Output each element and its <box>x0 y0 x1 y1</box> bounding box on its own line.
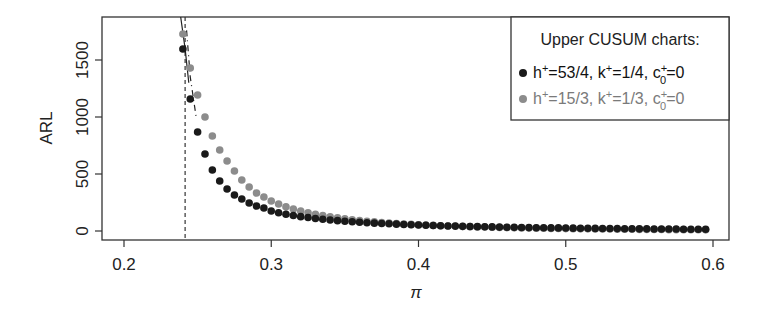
data-point <box>231 191 239 199</box>
data-point <box>562 224 570 232</box>
data-point <box>238 195 246 203</box>
data-point <box>312 215 320 223</box>
data-point <box>245 183 253 191</box>
data-point <box>290 212 298 220</box>
data-point <box>658 225 666 233</box>
data-point <box>687 225 695 233</box>
data-point <box>672 225 680 233</box>
data-point <box>385 220 393 228</box>
data-point <box>356 218 364 226</box>
data-point <box>702 225 710 233</box>
data-point <box>348 218 356 226</box>
data-point <box>488 223 496 231</box>
data-point <box>201 113 209 121</box>
data-point <box>245 199 253 207</box>
data-point <box>282 203 290 211</box>
data-point <box>326 216 334 224</box>
data-point <box>201 150 209 158</box>
x-tick-label: 0.6 <box>701 255 725 274</box>
data-point <box>179 30 187 38</box>
data-point <box>363 219 371 227</box>
data-point <box>599 225 607 233</box>
data-point <box>334 217 342 225</box>
data-point <box>452 222 460 230</box>
x-axis: 0.20.30.40.50.6 <box>112 240 725 274</box>
data-point <box>415 221 423 229</box>
arl-chart: 0.20.30.40.50.6 050010001500 π ARL Upper… <box>0 0 766 316</box>
y-axis-label: ARL <box>37 111 56 144</box>
data-point <box>209 132 217 140</box>
data-point <box>238 176 246 184</box>
data-point <box>216 177 224 185</box>
x-tick-label: 0.3 <box>259 255 283 274</box>
y-tick-label: 0 <box>73 226 92 235</box>
data-point <box>444 222 452 230</box>
data-point <box>378 220 386 228</box>
data-point <box>481 223 489 231</box>
data-point <box>297 213 305 221</box>
data-point <box>569 224 577 232</box>
data-point <box>267 197 275 205</box>
legend-title: Upper CUSUM charts: <box>540 31 699 48</box>
y-tick-label: 1000 <box>73 98 92 136</box>
data-point <box>282 210 290 218</box>
x-tick-label: 0.5 <box>554 255 578 274</box>
data-point <box>223 157 231 165</box>
data-point <box>290 205 298 213</box>
y-tick-label: 500 <box>73 160 92 188</box>
data-point <box>393 220 401 228</box>
data-point <box>496 223 504 231</box>
data-point <box>253 189 261 197</box>
data-point <box>371 219 379 227</box>
data-point <box>186 64 194 72</box>
data-point <box>267 207 275 215</box>
data-point <box>400 221 408 229</box>
data-point <box>584 224 592 232</box>
data-point <box>577 224 585 232</box>
data-point <box>231 167 239 175</box>
data-point <box>209 166 217 174</box>
data-point <box>680 225 688 233</box>
data-point <box>606 225 614 233</box>
y-tick-label: 1500 <box>73 41 92 79</box>
data-point <box>547 224 555 232</box>
data-point <box>275 209 283 217</box>
data-point <box>591 225 599 233</box>
data-point <box>260 204 268 212</box>
data-point <box>503 223 511 231</box>
data-point <box>650 225 658 233</box>
data-point <box>459 223 467 231</box>
data-point <box>194 91 202 99</box>
data-point <box>319 215 327 223</box>
data-point <box>194 128 202 136</box>
data-point <box>223 185 231 193</box>
data-point <box>510 224 518 232</box>
data-point <box>643 225 651 233</box>
data-point <box>216 146 224 154</box>
data-point <box>613 225 621 233</box>
data-point <box>186 95 194 103</box>
data-point <box>437 222 445 230</box>
data-point <box>525 224 533 232</box>
data-point <box>275 200 283 208</box>
data-point <box>179 45 187 53</box>
data-point <box>621 225 629 233</box>
data-point <box>407 221 415 229</box>
data-point <box>466 223 474 231</box>
y-axis: 050010001500 <box>73 41 102 236</box>
data-point <box>540 224 548 232</box>
data-point <box>533 224 541 232</box>
data-point <box>341 217 349 225</box>
data-point <box>253 202 261 210</box>
data-point <box>694 225 702 233</box>
legend-marker <box>519 69 527 77</box>
data-point <box>628 225 636 233</box>
data-point <box>304 214 312 222</box>
data-point <box>518 224 526 232</box>
data-point <box>665 225 673 233</box>
data-point <box>422 222 430 230</box>
data-point <box>260 193 268 201</box>
data-point <box>555 224 563 232</box>
legend-marker <box>519 95 527 103</box>
legend: Upper CUSUM charts: h+=53/4, k+=1/4, c+0… <box>511 17 729 120</box>
